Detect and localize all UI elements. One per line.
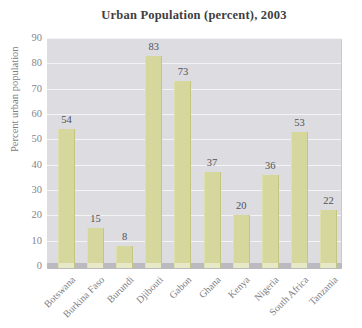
bar-kenya <box>233 215 250 268</box>
bar-foot <box>146 263 161 268</box>
bar-foot <box>59 263 74 268</box>
value-label-burkina-faso: 15 <box>81 213 111 224</box>
bar-burundi <box>116 246 133 268</box>
urban-population-bar-chart: Urban Population (percent), 2003 Percent… <box>0 0 362 328</box>
value-label-nigeria: 36 <box>255 160 285 171</box>
bar-foot <box>263 263 278 268</box>
ytick-label-40: 40 <box>16 159 42 170</box>
ytick-label-50: 50 <box>16 133 42 144</box>
ytick-label-90: 90 <box>16 32 42 43</box>
xtick-label-ghana: Ghana <box>197 274 223 300</box>
ytick-label-60: 60 <box>16 108 42 119</box>
bar-nigeria <box>262 175 279 268</box>
bar-south-africa <box>291 132 308 268</box>
value-label-ghana: 37 <box>197 157 227 168</box>
xtick-label-djibouti: Djibouti <box>133 274 164 305</box>
bar-foot <box>321 263 336 268</box>
value-label-kenya: 20 <box>226 200 256 211</box>
ytick-label-20: 20 <box>16 209 42 220</box>
value-label-south-africa: 53 <box>284 117 314 128</box>
ytick-label-70: 70 <box>16 83 42 94</box>
bar-foot <box>205 263 220 268</box>
bar-gabon <box>174 81 191 268</box>
bar-foot <box>175 263 190 268</box>
gridline-80 <box>47 63 341 64</box>
xtick-label-gabon: Gabon <box>167 274 194 301</box>
bar-ghana <box>204 172 221 268</box>
ytick-label-30: 30 <box>16 184 42 195</box>
bar-tanzania <box>320 210 337 268</box>
bar-djibouti <box>145 56 162 268</box>
xtick-label-tanzania: Tanzania <box>306 274 339 307</box>
xtick-label-burundi: Burundi <box>105 274 136 305</box>
value-label-botswana: 54 <box>52 114 82 125</box>
gridline-60 <box>47 114 341 115</box>
bar-burkina-faso <box>87 228 104 268</box>
xtick-label-kenya: Kenya <box>226 274 252 300</box>
value-label-gabon: 73 <box>168 66 198 77</box>
bar-foot <box>117 263 132 268</box>
bar-foot <box>234 263 249 268</box>
bar-botswana <box>58 129 75 268</box>
value-label-burundi: 8 <box>110 231 140 242</box>
bar-foot <box>88 263 103 268</box>
bar-foot <box>292 263 307 268</box>
chart-title: Urban Population (percent), 2003 <box>47 8 341 23</box>
value-label-djibouti: 83 <box>139 41 169 52</box>
gridline-90 <box>47 38 341 39</box>
ytick-label-10: 10 <box>16 235 42 246</box>
value-label-tanzania: 22 <box>313 195 343 206</box>
ytick-label-80: 80 <box>16 57 42 68</box>
gridline-70 <box>47 89 341 90</box>
ytick-label-0: 0 <box>16 260 42 271</box>
